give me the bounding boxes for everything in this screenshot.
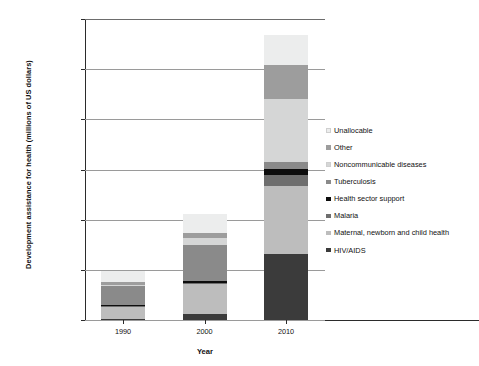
bar-segment <box>183 245 227 281</box>
y-tick-mark <box>81 119 85 120</box>
y-axis-title: Development assistance for health (milli… <box>24 35 33 295</box>
y-tick-mark <box>81 320 85 321</box>
bar-segment <box>183 281 227 283</box>
bar-segment <box>101 271 145 283</box>
legend-item: HIV/AIDS <box>326 242 478 259</box>
x-tick-label: 1990 <box>93 327 153 336</box>
legend-item-label: Malaria <box>334 212 358 219</box>
legend-swatch-icon <box>326 214 331 219</box>
gridline <box>85 19 325 20</box>
bar-segment <box>183 283 227 284</box>
legend-swatch-icon <box>326 180 331 185</box>
legend-item: Tuberculosis <box>326 173 478 190</box>
legend-item: Other <box>326 139 478 156</box>
bar-segment <box>264 99 308 162</box>
bar-segment <box>101 307 145 319</box>
bar-segment <box>264 175 308 186</box>
bar-segment <box>101 282 145 285</box>
legend-swatch-icon <box>326 231 331 236</box>
bar-segment <box>101 286 145 305</box>
plot-area: 0.005,000.0010,000.0015,000.0020,000.002… <box>85 19 325 320</box>
legend-swatch-icon <box>326 197 331 202</box>
bar-1990 <box>101 271 145 320</box>
bar-segment <box>264 186 308 254</box>
legend-item-label: Maternal, newborn and child health <box>334 229 449 236</box>
bar-segment <box>183 233 227 238</box>
bar-segment <box>264 254 308 320</box>
legend-swatch-icon <box>326 162 331 167</box>
bar-segment <box>264 65 308 100</box>
bar-2010 <box>264 35 308 320</box>
x-axis-title: Year <box>85 347 325 356</box>
bar-segment <box>264 35 308 65</box>
chart-legend: UnallocableOtherNoncommunicable diseases… <box>326 122 478 259</box>
legend-item: Maternal, newborn and child health <box>326 225 478 242</box>
y-tick-mark <box>81 19 85 20</box>
bar-2000 <box>183 214 227 320</box>
legend-swatch-icon <box>326 248 331 253</box>
bar-segment <box>101 285 145 286</box>
legend-item: Health sector support <box>326 190 478 207</box>
bar-segment <box>183 214 227 233</box>
stacked-bar-chart: Development assistance for health (milli… <box>0 0 479 366</box>
legend-item: Noncommunicable diseases <box>326 156 478 173</box>
bar-segment <box>101 305 145 306</box>
legend-item-label: Unallocable <box>334 127 373 134</box>
y-tick-mark <box>81 270 85 271</box>
x-tick-mark <box>286 320 287 324</box>
legend-item: Malaria <box>326 207 478 224</box>
legend-item-label: Tuberculosis <box>334 178 376 185</box>
legend-item-label: Noncommunicable diseases <box>334 161 426 168</box>
y-tick-mark <box>81 69 85 70</box>
bar-segment <box>101 306 145 307</box>
x-tick-label: 2000 <box>175 327 235 336</box>
legend-swatch-icon <box>326 128 331 133</box>
bar-segment <box>183 284 227 314</box>
legend-item-label: Health sector support <box>334 195 404 202</box>
legend-item-label: HIV/AIDS <box>334 247 366 254</box>
x-tick-mark <box>123 320 124 324</box>
y-tick-mark <box>81 170 85 171</box>
bar-segment <box>183 238 227 245</box>
legend-item-label: Other <box>334 144 352 151</box>
y-tick-mark <box>81 220 85 221</box>
bar-segment <box>264 169 308 176</box>
legend-item: Unallocable <box>326 122 478 139</box>
x-tick-mark <box>205 320 206 324</box>
bar-segment <box>264 162 308 168</box>
x-tick-label: 2010 <box>256 327 316 336</box>
legend-swatch-icon <box>326 145 331 150</box>
